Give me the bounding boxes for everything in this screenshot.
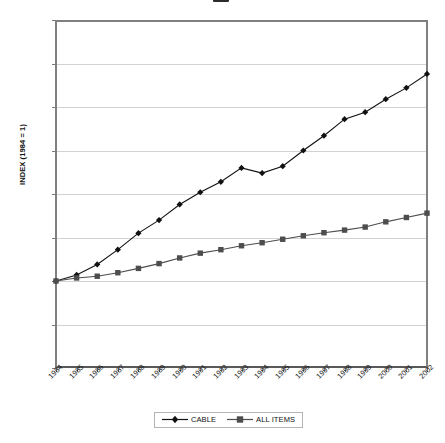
data-point-diamond-icon [403, 85, 409, 91]
data-point-diamond-icon [383, 96, 389, 102]
series-all-items [53, 210, 429, 283]
data-point-diamond-icon [218, 179, 224, 185]
data-point-square-icon [177, 255, 182, 260]
data-point-square-icon [362, 224, 367, 229]
legend-label-cable: CABLE [191, 416, 216, 424]
series-line [56, 74, 427, 281]
data-point-square-icon [218, 247, 223, 252]
legend-item-all-items: ALL ITEMS [227, 415, 295, 424]
series-cable [53, 71, 430, 284]
series-layer [0, 0, 445, 443]
data-point-square-icon [53, 278, 58, 283]
data-point-diamond-icon [259, 170, 265, 176]
data-point-square-icon [239, 243, 244, 248]
data-point-square-icon [301, 233, 306, 238]
data-point-diamond-icon [424, 71, 430, 77]
data-point-square-icon [280, 237, 285, 242]
data-point-square-icon [404, 215, 409, 220]
data-point-square-icon [198, 250, 203, 255]
data-point-square-icon [424, 210, 429, 215]
legend-marker-diamond-icon [162, 415, 188, 424]
data-point-square-icon [259, 240, 264, 245]
legend-marker-square-icon [227, 415, 253, 424]
data-point-diamond-icon [197, 189, 203, 195]
legend-item-cable: CABLE [162, 415, 216, 424]
data-point-diamond-icon [238, 165, 244, 171]
data-point-square-icon [342, 227, 347, 232]
data-point-square-icon [156, 261, 161, 266]
legend-label-all-items: ALL ITEMS [256, 416, 295, 424]
chart-legend: CABLE ALL ITEMS [154, 412, 303, 428]
data-point-diamond-icon [362, 109, 368, 115]
data-point-square-icon [74, 275, 79, 280]
data-point-square-icon [383, 219, 388, 224]
line-chart: INDEX (1984 = 1) 00.511.522.533.54 19841… [0, 0, 445, 443]
data-point-square-icon [136, 266, 141, 271]
data-point-square-icon [95, 274, 100, 279]
data-point-square-icon [115, 270, 120, 275]
data-point-square-icon [321, 230, 326, 235]
